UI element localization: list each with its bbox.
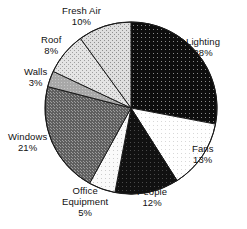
pie-label-fans-name: Fans (192, 143, 214, 154)
pie-label-lighting-name: Lighting (186, 36, 220, 47)
pie-label-lighting: Lighting 28% (186, 36, 220, 58)
pie-chart: Lighting 28% Fans 13% People 12% Office … (0, 0, 247, 229)
pie-label-people: People 12% (137, 186, 167, 208)
pie-label-walls-percent: 3% (24, 77, 47, 88)
pie-label-walls-name: Walls (24, 66, 47, 77)
pie-label-lighting-percent: 28% (186, 47, 220, 58)
pie-label-office-equipment: Office Equipment 5% (62, 185, 108, 218)
pie-label-roof: Roof 8% (41, 34, 61, 56)
pie-label-people-percent: 12% (137, 197, 167, 208)
pie-label-windows: Windows 21% (8, 131, 47, 153)
pie-label-roof-name: Roof (41, 34, 61, 45)
pie-label-fans-percent: 13% (192, 154, 214, 165)
pie-label-walls: Walls 3% (24, 66, 47, 88)
pie-label-roof-percent: 8% (41, 45, 61, 56)
pie-label-fresh-air-percent: 10% (62, 16, 101, 27)
pie-label-office-equipment-name-line2: Equipment (62, 196, 108, 207)
pie-label-windows-name: Windows (8, 131, 47, 142)
pie-label-fans: Fans 13% (192, 143, 214, 165)
pie-label-office-equipment-percent: 5% (62, 207, 108, 218)
pie-label-people-name: People (137, 186, 167, 197)
pie-label-windows-percent: 21% (8, 142, 47, 153)
pie-label-office-equipment-name-line1: Office (62, 185, 108, 196)
pie-label-fresh-air: Fresh Air 10% (62, 5, 101, 27)
pie-chart-canvas (0, 0, 247, 229)
pie-label-fresh-air-name: Fresh Air (62, 5, 101, 16)
